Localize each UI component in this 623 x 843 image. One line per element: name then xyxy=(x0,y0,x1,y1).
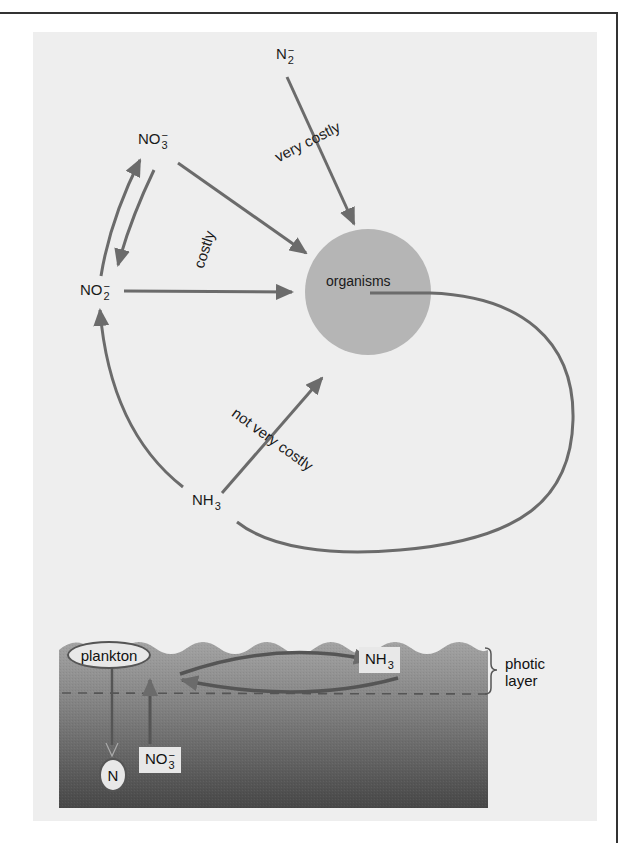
photic-label-line1: photic xyxy=(505,656,545,673)
ocean-no3-label: NO−3 xyxy=(139,747,181,773)
sink-n-label: N xyxy=(108,767,119,784)
arrow-no3-no2 xyxy=(118,170,154,265)
plankton-node: plankton xyxy=(67,641,151,669)
no3-label: NO−3 xyxy=(138,130,168,151)
photic-layer-label: photic layer xyxy=(505,656,545,689)
sink-n-node: N xyxy=(99,758,127,792)
organisms-label: organisms xyxy=(326,274,391,288)
n2-label: N−2 xyxy=(276,45,294,66)
arrow-no2-organisms xyxy=(124,291,292,292)
photic-label-line2: layer xyxy=(505,673,545,690)
ocean-nh3-label: NH 3 xyxy=(359,647,400,673)
arrow-nh3-no2 xyxy=(100,310,183,487)
no2-label: NO−2 xyxy=(80,281,110,302)
plankton-label: plankton xyxy=(81,647,138,664)
diagram-graphics xyxy=(0,0,623,843)
nh3-label: NH 3 xyxy=(192,491,221,512)
